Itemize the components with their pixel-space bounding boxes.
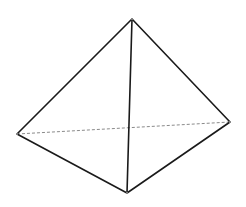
tetrahedron-diagram [0,0,246,207]
background [0,0,246,207]
vertex-right [229,121,231,123]
vertex-bottom [126,192,128,194]
vertex-top [131,18,133,20]
vertex-left [16,133,18,135]
